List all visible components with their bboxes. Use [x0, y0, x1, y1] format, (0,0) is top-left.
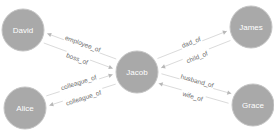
edge[interactable]: wife_of [159, 82, 229, 103]
node-grace[interactable]: Grace [232, 84, 274, 126]
node-label: David [13, 26, 33, 35]
node-james[interactable]: James [230, 6, 272, 48]
node-label: Alice [16, 104, 34, 113]
arrowhead-icon [159, 82, 163, 86]
node-label: James [239, 23, 263, 32]
node-jacob[interactable]: Jacob [116, 51, 158, 93]
edge[interactable]: child_of [161, 40, 230, 68]
edge-label: colleague_of [65, 89, 103, 108]
edge-label: wife_of [181, 90, 204, 104]
edge[interactable]: boss_of [44, 43, 113, 69]
knowledge-graph: employee_ofboss_ofdad_ofchild_ofcolleagu… [0, 0, 274, 131]
edge-label: dad_of [181, 35, 203, 50]
node-david[interactable]: David [2, 9, 44, 51]
node-label: Jacob [126, 68, 148, 77]
edge[interactable]: husband_of [161, 72, 231, 94]
nodes-layer: DavidJamesJacobAliceGrace [2, 6, 274, 129]
edge[interactable]: employee_of [47, 33, 116, 59]
arrowhead-icon [227, 90, 231, 94]
node-alice[interactable]: Alice [4, 87, 46, 129]
edge-label: colleague_of [60, 73, 98, 92]
node-label: Grace [242, 101, 264, 110]
edge-label: boss_of [65, 51, 89, 66]
